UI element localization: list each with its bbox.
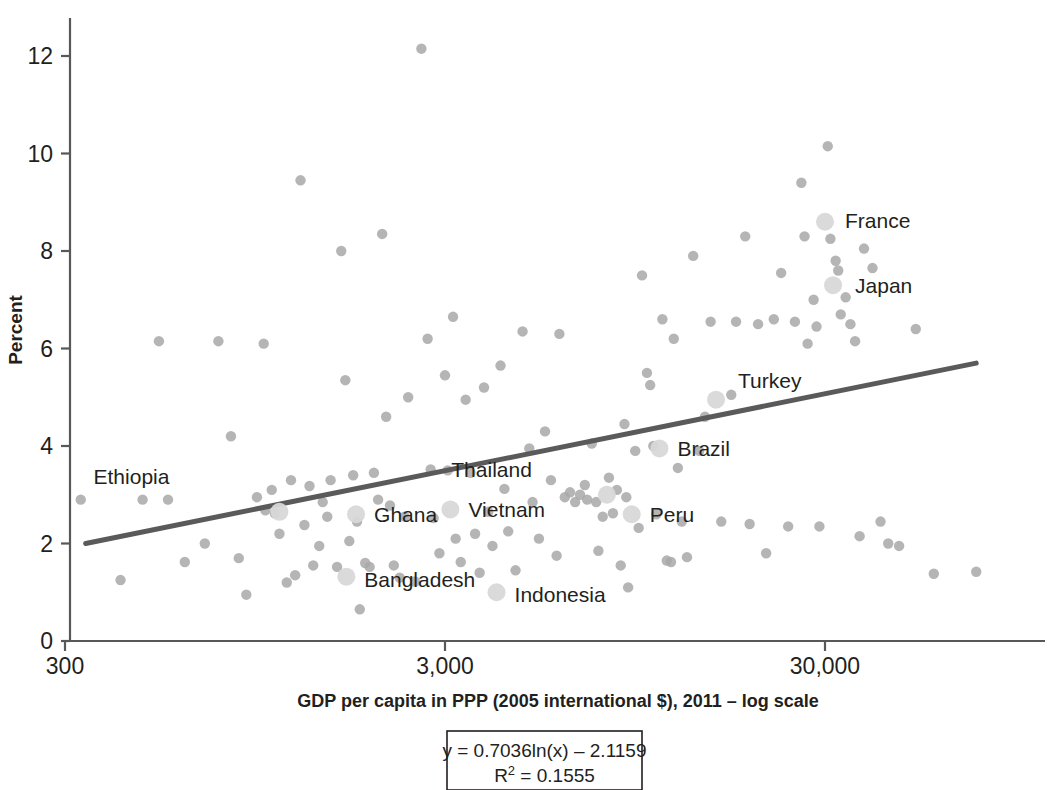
- scatter-point: [608, 508, 618, 518]
- scatter-point: [479, 382, 489, 392]
- scatter-point: [286, 475, 296, 485]
- scatter-point: [344, 536, 354, 546]
- chart-container: 0246810123003,00030,000PercentGDP per ca…: [0, 0, 1048, 790]
- point-label: Thailand: [451, 458, 532, 481]
- x-axis-tick-label: 30,000: [790, 653, 860, 679]
- scatter-point: [336, 246, 346, 256]
- scatter-point: [137, 494, 147, 504]
- scatter-point: [911, 324, 921, 334]
- scatter-point: [540, 426, 550, 436]
- labeled-point-marker: [623, 505, 641, 523]
- y-axis-tick-label: 2: [40, 531, 53, 557]
- labeled-point-marker: [441, 500, 459, 518]
- labeled-point-marker: [598, 486, 616, 504]
- point-label: France: [845, 209, 910, 232]
- scatter-point: [859, 243, 869, 253]
- scatter-point: [554, 329, 564, 339]
- labeled-point-marker: [337, 568, 355, 586]
- scatter-point: [322, 511, 332, 521]
- scatter-point: [434, 548, 444, 558]
- point-label: Ghana: [374, 503, 437, 526]
- r-squared-value: R2 = 0.1555: [494, 763, 595, 786]
- scatter-point: [474, 568, 484, 578]
- scatter-point: [688, 251, 698, 261]
- scatter-point: [258, 338, 268, 348]
- point-label: Bangladesh: [364, 568, 475, 591]
- scatter-point: [854, 531, 864, 541]
- scatter-point: [580, 480, 590, 490]
- scatter-point: [440, 370, 450, 380]
- scatter-point: [875, 516, 885, 526]
- scatter-point: [551, 550, 561, 560]
- labeled-point-marker: [347, 505, 365, 523]
- labeled-point-marker: [488, 583, 506, 601]
- scatter-point: [645, 380, 655, 390]
- scatter-point: [823, 141, 833, 151]
- scatter-point: [630, 446, 640, 456]
- scatter-point: [830, 256, 840, 266]
- y-axis-tick-label: 12: [27, 43, 53, 69]
- scatter-point: [546, 475, 556, 485]
- scatter-point: [416, 43, 426, 53]
- scatter-point: [274, 529, 284, 539]
- scatter-point: [403, 392, 413, 402]
- scatter-point: [308, 560, 318, 570]
- y-axis-tick-label: 4: [40, 433, 53, 459]
- scatter-point: [867, 263, 877, 273]
- scatter-point: [619, 419, 629, 429]
- labeled-point-marker: [816, 213, 834, 231]
- point-label: Peru: [650, 503, 694, 526]
- scatter-point: [802, 338, 812, 348]
- scatter-point: [753, 319, 763, 329]
- scatter-point: [799, 231, 809, 241]
- point-label: Indonesia: [515, 583, 606, 606]
- scatter-point: [593, 546, 603, 556]
- scatter-point: [705, 316, 715, 326]
- point-label: Vietnam: [468, 498, 545, 521]
- scatter-point: [213, 336, 223, 346]
- scatter-point: [776, 268, 786, 278]
- scatter-point: [450, 533, 460, 543]
- scatter-point: [299, 520, 309, 530]
- scatter-point: [726, 390, 736, 400]
- scatter-point: [304, 481, 314, 491]
- scatter-point: [517, 326, 527, 336]
- scatter-point: [200, 538, 210, 548]
- x-axis-title: GDP per capita in PPP (2005 internationa…: [297, 691, 819, 711]
- scatter-point: [657, 314, 667, 324]
- scatter-point: [971, 567, 981, 577]
- scatter-point: [731, 316, 741, 326]
- scatter-points: [76, 43, 982, 614]
- scatter-point: [340, 375, 350, 385]
- scatter-point: [621, 492, 631, 502]
- scatter-point: [597, 511, 607, 521]
- scatter-point: [377, 229, 387, 239]
- scatter-point: [499, 484, 509, 494]
- scatter-point: [314, 541, 324, 551]
- scatter-point: [456, 557, 466, 567]
- scatter-point: [76, 494, 86, 504]
- scatter-point: [783, 521, 793, 531]
- scatter-point: [669, 334, 679, 344]
- scatter-point: [163, 494, 173, 504]
- trendline-equation: y = 0.7036ln(x) – 2.1159: [442, 740, 646, 761]
- y-axis-tick-label: 0: [40, 628, 53, 654]
- scatter-point: [790, 316, 800, 326]
- scatter-point: [534, 533, 544, 543]
- scatter-point: [381, 412, 391, 422]
- scatter-point: [470, 529, 480, 539]
- scatter-point: [845, 319, 855, 329]
- scatter-point: [616, 560, 626, 570]
- scatter-point: [487, 541, 497, 551]
- scatter-point: [633, 523, 643, 533]
- scatter-point: [682, 552, 692, 562]
- labeled-point-marker: [707, 391, 725, 409]
- scatter-point: [761, 548, 771, 558]
- scatter-point: [115, 575, 125, 585]
- scatter-point: [282, 577, 292, 587]
- scatter-point: [769, 314, 779, 324]
- scatter-point: [929, 569, 939, 579]
- scatter-point: [642, 368, 652, 378]
- scatter-point: [673, 463, 683, 473]
- scatter-point: [833, 265, 843, 275]
